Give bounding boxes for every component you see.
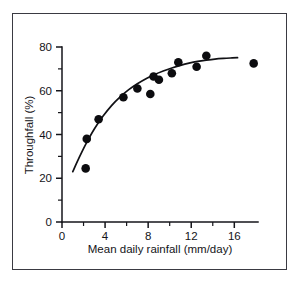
y-tick-label: 80	[39, 41, 52, 53]
data-point-marker	[174, 58, 183, 67]
data-point-marker	[155, 76, 164, 85]
x-tick-label: 12	[185, 230, 198, 242]
scatter-plot-chart: 020406080 0481216 Mean daily rainfall (m…	[0, 0, 300, 285]
data-point-marker	[133, 84, 142, 93]
y-axis-title: Throughfall (%)	[23, 96, 35, 175]
data-point-marker	[249, 59, 258, 68]
data-point-marker	[146, 90, 155, 99]
data-point-marker	[82, 135, 91, 144]
data-point-marker	[202, 51, 211, 60]
y-axis-ticks: 020406080	[39, 41, 62, 228]
y-tick-label: 0	[46, 216, 52, 228]
x-axis-ticks: 0481216	[59, 222, 241, 242]
y-tick-label: 20	[39, 172, 52, 184]
y-tick-label: 40	[39, 129, 52, 141]
data-point-marker	[81, 164, 90, 173]
data-point-marker	[192, 62, 201, 71]
x-tick-label: 0	[59, 230, 65, 242]
data-points	[81, 51, 258, 172]
data-point-marker	[119, 93, 128, 102]
x-tick-label: 16	[228, 230, 241, 242]
x-axis-title: Mean daily rainfall (mm/day)	[88, 243, 233, 255]
x-tick-label: 4	[102, 230, 109, 242]
data-point-marker	[168, 69, 177, 78]
y-tick-label: 60	[39, 85, 52, 97]
figure-root: 020406080 0481216 Mean daily rainfall (m…	[0, 0, 300, 285]
data-point-marker	[94, 115, 103, 124]
x-tick-label: 8	[145, 230, 151, 242]
